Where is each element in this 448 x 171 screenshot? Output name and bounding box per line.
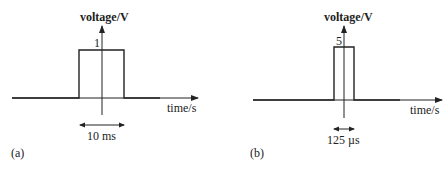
panel-label: (a): [11, 146, 24, 160]
x-axis-label: time/s: [410, 103, 440, 117]
pulse-waveform: [253, 47, 400, 100]
amplitude-label: 5: [336, 34, 342, 48]
width-label: 10 ms: [87, 129, 116, 143]
width-label: 125 µs: [327, 133, 360, 147]
pulse-diagrams: voltage/V 1 time/s 10 ms (a) voltage/V 5…: [0, 0, 448, 171]
y-axis-label: voltage/V: [80, 10, 129, 24]
y-axis-label: voltage/V: [324, 10, 373, 24]
panel-a: voltage/V 1 time/s 10 ms (a): [11, 10, 198, 160]
x-axis-label: time/s: [167, 101, 197, 115]
amplitude-label: 1: [94, 36, 100, 50]
pulse-waveform: [12, 50, 160, 98]
panel-label: (b): [250, 146, 264, 160]
panel-b: voltage/V 5 time/s 125 µs (b): [250, 10, 442, 160]
